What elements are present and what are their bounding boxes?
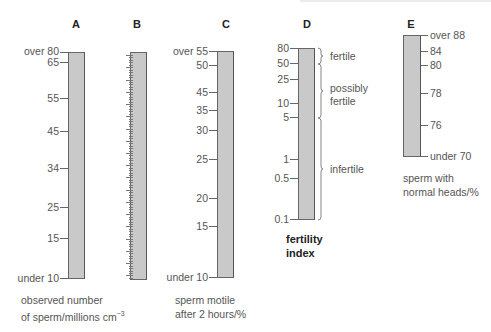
ruler-minor-tick: [129, 131, 133, 132]
ruler-major-tick: [126, 55, 133, 56]
scale-e-letter: E: [407, 18, 414, 30]
ruler-minor-tick: [129, 273, 133, 274]
tick: [421, 51, 428, 52]
ruler-major-tick: [126, 153, 133, 154]
ruler-minor-tick: [129, 155, 133, 156]
ruler-minor-tick: [129, 244, 133, 245]
brace-fertile-icon: [317, 48, 325, 64]
ruler-minor-tick: [129, 185, 133, 186]
ruler-minor-tick: [129, 229, 133, 230]
ruler-major-tick: [126, 177, 133, 178]
ruler-minor-tick: [129, 175, 133, 176]
caption-line: after 2 hours/%: [175, 307, 246, 321]
ruler-minor-tick: [129, 124, 133, 125]
caption-line: sperm with: [403, 171, 479, 185]
tick: [60, 168, 68, 169]
ruler-minor-tick: [129, 62, 133, 63]
tick: [209, 110, 217, 111]
scale-a-letter: A: [72, 18, 80, 30]
scale-d-tick-label: 5: [283, 111, 289, 123]
caption-line: fertility: [286, 232, 323, 246]
ruler-minor-tick: [129, 234, 133, 235]
scale-e-tick-label: 84: [430, 45, 442, 57]
tick: [209, 130, 217, 131]
ruler-major-tick: [126, 141, 133, 142]
ruler-minor-tick: [129, 268, 133, 269]
scale-e-tick-label: 76: [430, 119, 442, 131]
ruler-minor-tick: [129, 106, 133, 107]
tick: [290, 178, 298, 179]
ruler-minor-tick: [129, 84, 133, 85]
ruler-minor-tick: [129, 187, 133, 188]
scale-c-tick-label: 25: [196, 153, 208, 165]
scale-a-tick-label: under 10: [18, 272, 59, 284]
scale-d-tick-label: 25: [277, 73, 289, 85]
scale-c-tick-label: 50: [196, 59, 208, 71]
ruler-minor-tick: [129, 212, 133, 213]
ruler-major-tick: [126, 92, 133, 93]
caption-line: sperm motile: [175, 293, 246, 307]
tick: [290, 219, 298, 220]
top-border-line: [300, 0, 491, 2]
ruler-minor-tick: [129, 57, 133, 58]
ruler-minor-tick: [129, 65, 133, 66]
ruler-minor-tick: [129, 249, 133, 250]
ruler-minor-tick: [129, 258, 133, 259]
ruler-major-tick: [126, 190, 133, 191]
tick: [290, 48, 298, 49]
ruler-major-tick: [126, 275, 133, 276]
ruler-minor-tick: [129, 148, 133, 149]
ruler-major-tick: [126, 104, 133, 105]
ruler-minor-tick: [129, 271, 133, 272]
ruler-minor-tick: [129, 209, 133, 210]
tick: [290, 63, 298, 64]
scale-d-tick-label: 10: [277, 97, 289, 109]
ruler-minor-tick: [129, 72, 133, 73]
ruler-minor-tick: [129, 75, 133, 76]
ruler-minor-tick: [129, 163, 133, 164]
tick: [290, 79, 298, 80]
ruler-major-tick: [126, 251, 133, 252]
scale-e-tick-label: 78: [430, 87, 442, 99]
scale-c-tick-label: 35: [196, 104, 208, 116]
tick: [60, 62, 68, 63]
ruler-minor-tick: [129, 222, 133, 223]
ruler-minor-tick: [129, 109, 133, 110]
range-label-possibly-fertile: fertile: [330, 95, 356, 107]
tick: [209, 226, 217, 227]
ruler-minor-tick: [129, 146, 133, 147]
scale-b-letter: B: [133, 18, 141, 30]
ruler-minor-tick: [129, 60, 133, 61]
scale-d-caption: fertility index: [286, 232, 323, 260]
scale-d-letter: D: [303, 18, 311, 30]
ruler-minor-tick: [129, 241, 133, 242]
scale-c-tick-label: 20: [196, 192, 208, 204]
ruler-minor-tick: [129, 114, 133, 115]
ruler-minor-tick: [129, 224, 133, 225]
ruler-minor-tick: [129, 87, 133, 88]
ruler-minor-tick: [129, 192, 133, 193]
tick: [290, 159, 298, 160]
scale-a-tick-label: 55: [47, 92, 59, 104]
brace-infertile-icon: [317, 118, 325, 220]
ruler-major-tick: [126, 116, 133, 117]
ruler-minor-tick: [129, 219, 133, 220]
tick: [209, 159, 217, 160]
ruler-minor-tick: [129, 89, 133, 90]
tick: [421, 156, 428, 157]
ruler-minor-tick: [129, 94, 133, 95]
scale-c-tick-label: over 55: [173, 45, 208, 57]
tick: [290, 103, 298, 104]
ruler-minor-tick: [129, 119, 133, 120]
ruler-major-tick: [126, 263, 133, 264]
scale-e-tick-label: over 88: [430, 29, 465, 41]
scale-d-tick-label: 1: [283, 153, 289, 165]
range-label-fertile: fertile: [330, 50, 356, 62]
brace-possibly-fertile-icon: [317, 64, 325, 118]
ruler-minor-tick: [129, 256, 133, 257]
ruler-minor-tick: [129, 253, 133, 254]
ruler-minor-tick: [129, 151, 133, 152]
scale-e-tick-label: under 70: [430, 150, 471, 162]
scale-a-tick-label: 34: [47, 162, 59, 174]
ruler-minor-tick: [129, 133, 133, 134]
